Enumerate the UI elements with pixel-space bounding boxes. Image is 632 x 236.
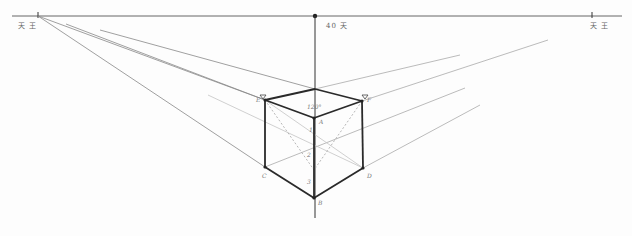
perspective-diagram: 天 王 天 王 40 天 E F A C D B 120° 1 2 3	[0, 0, 632, 236]
left-vp-label: 天 王	[18, 20, 37, 30]
left-guides	[38, 16, 315, 167]
vertex-label-e: E	[256, 96, 260, 103]
faint-guides	[208, 95, 363, 168]
division-mark-2: 2	[307, 151, 311, 158]
vertex-label-d: D	[367, 172, 372, 179]
vertex-label-a: A	[319, 118, 323, 125]
division-mark-1: 1	[309, 126, 313, 133]
angle-label: 120°	[307, 103, 321, 110]
center-vp-label: 40 天	[326, 20, 348, 30]
vertex-label-c: C	[262, 172, 267, 179]
vertex-label-f: F	[367, 96, 371, 103]
right-vp-label: 天 王	[590, 20, 609, 30]
division-mark-3: 3	[307, 178, 311, 185]
diagram-canvas	[0, 0, 632, 236]
vertex-label-b: B	[318, 199, 322, 206]
